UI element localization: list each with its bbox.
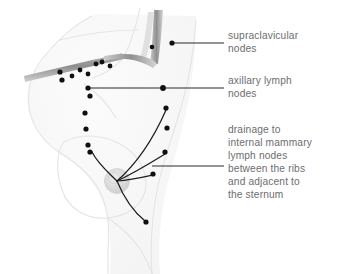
label-supraclavicular-nodes: supraclavicular nodes xyxy=(228,29,298,55)
label-internal-mammary-drainage: drainage to internal mammary lymph nodes… xyxy=(228,123,312,202)
node-clavicle-4 xyxy=(78,68,83,73)
node-supraclavicular-1 xyxy=(169,40,174,45)
node-internal-mammary-3 xyxy=(162,149,167,154)
label-axillary-lymph-nodes: axillary lymph nodes xyxy=(228,74,292,100)
node-axillary-chain-4 xyxy=(83,126,88,131)
node-clavicle-8 xyxy=(108,64,113,69)
node-axillary-chain-1 xyxy=(85,85,90,90)
node-clavicle-3 xyxy=(70,74,75,79)
node-clavicle-1 xyxy=(57,69,62,74)
node-clavicle-6 xyxy=(94,62,99,67)
body-silhouette xyxy=(27,14,196,274)
lymphatic-drainage-diagram: supraclavicular nodes axillary lymph nod… xyxy=(0,0,350,274)
node-axillary-chain-5 xyxy=(85,142,90,147)
node-inferior-terminus xyxy=(143,219,148,224)
node-axillary-chain-2 xyxy=(87,93,92,98)
node-clavicle-5 xyxy=(86,72,91,77)
node-internal-mammary-4 xyxy=(150,171,155,176)
node-axillary-chain-3 xyxy=(82,110,87,115)
node-clavicle-2 xyxy=(59,77,64,82)
node-internal-mammary-2 xyxy=(164,125,169,130)
node-axillary-apex xyxy=(160,85,166,91)
node-internal-mammary-1 xyxy=(163,105,168,110)
node-axillary-chain-6 xyxy=(87,149,92,154)
node-supraclavicular-2 xyxy=(150,45,155,50)
node-clavicle-7 xyxy=(100,60,105,65)
